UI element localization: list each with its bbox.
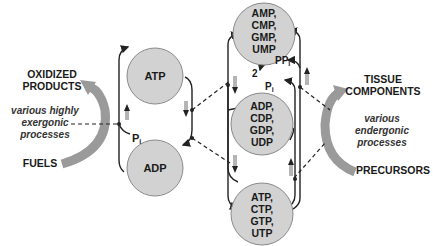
pi-label-right: Pi <box>265 81 274 93</box>
precursors-label: PRECURSORS <box>356 164 430 176</box>
udp-label: UDP <box>251 136 273 148</box>
gdp-label: GDP, <box>250 124 274 136</box>
cmp-label: CMP, <box>252 19 277 31</box>
adp2-label: ADP, <box>250 100 274 112</box>
gmp-label: GMP, <box>251 31 277 43</box>
energy-coupling-diagram: ATP ADP AMP, CMP, GMP, UMP ADP, CDP, GDP… <box>0 0 433 246</box>
adp-label: ADP <box>143 162 166 174</box>
atp-label: ATP <box>144 70 165 82</box>
tissue-label: TISSUE <box>364 73 402 85</box>
cdp-label: CDP, <box>250 112 274 124</box>
fuels-label: FUELS <box>23 157 57 169</box>
two-label: 2 <box>252 68 258 79</box>
endergonic-desc-1: various <box>364 113 400 124</box>
dashed-link-1 <box>192 81 230 110</box>
endergonic-desc-3: processes <box>356 137 407 148</box>
ump-label: UMP <box>252 43 275 55</box>
dashed-link-4 <box>294 143 325 178</box>
exergonic-desc-2: exergonic <box>21 117 69 128</box>
exergonic-desc-3: processes <box>19 129 70 140</box>
gtp-label: GTP, <box>250 215 273 227</box>
ppi-label: PPi <box>275 55 290 67</box>
pi-label-left: Pi <box>132 132 141 145</box>
exergonic-desc-1: various highly <box>11 105 79 116</box>
oxidized-label: OXIDIZED <box>27 68 77 80</box>
utp-label: UTP <box>252 227 273 239</box>
products-label: PRODUCTS <box>23 80 82 92</box>
dashed-link-2 <box>192 138 230 163</box>
components-label: COMPONENTS <box>345 85 420 97</box>
endergonic-arc-arrow <box>325 85 355 172</box>
endergonic-desc-2: endergonic <box>355 125 409 136</box>
amp-label: AMP, <box>252 7 277 19</box>
atp2-label: ATP, <box>251 191 273 203</box>
ctp-label: CTP, <box>251 203 274 215</box>
